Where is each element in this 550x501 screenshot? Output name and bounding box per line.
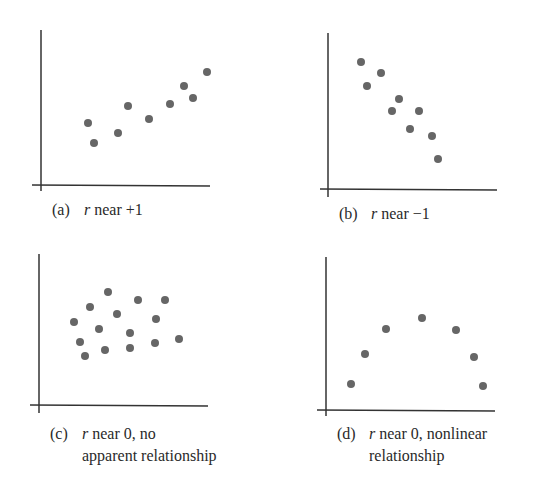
data-point [418, 314, 426, 322]
x-axis [32, 185, 210, 186]
caption-d: (d)r near 0, nonlinear relationship [337, 423, 487, 467]
data-point [357, 58, 365, 66]
data-point [134, 296, 142, 304]
data-point [382, 325, 390, 333]
data-point [428, 132, 436, 140]
data-point [347, 380, 355, 388]
data-point [189, 94, 197, 102]
data-point [166, 100, 174, 108]
caption-tag: (c) [50, 423, 82, 445]
data-point [388, 107, 396, 115]
data-point [126, 344, 134, 352]
data-point [363, 82, 371, 90]
data-point [377, 69, 385, 77]
data-point [452, 326, 460, 334]
caption-tag: (d) [337, 423, 369, 445]
data-point [90, 139, 98, 147]
data-point [470, 353, 478, 361]
data-point [113, 310, 121, 318]
data-point [479, 382, 487, 390]
data-point [175, 335, 183, 343]
data-point [86, 303, 94, 311]
data-point [151, 339, 159, 347]
data-point [203, 68, 211, 76]
data-point [104, 288, 112, 296]
caption-tag: (a) [52, 199, 84, 221]
data-point [434, 155, 442, 163]
data-point [161, 296, 169, 304]
caption-tag: (b) [339, 203, 371, 225]
data-point [361, 350, 369, 358]
x-axis [320, 189, 497, 190]
data-point [81, 352, 89, 360]
data-point [395, 95, 403, 103]
caption-text: near 0, no [88, 425, 156, 442]
caption-a: (a)r near +1 [52, 199, 143, 221]
x-axis [317, 410, 495, 411]
data-point [152, 315, 160, 323]
panel-c [30, 254, 208, 413]
data-point [101, 346, 109, 354]
caption-text-line2: apparent relationship [50, 445, 217, 467]
x-axis [30, 405, 208, 406]
data-point [180, 82, 188, 90]
data-point [84, 119, 92, 127]
panel-b [320, 33, 497, 197]
data-point [415, 107, 423, 115]
caption-c: (c)r near 0, no apparent relationship [50, 423, 217, 467]
caption-text-line2: relationship [337, 445, 487, 467]
caption-text: near +1 [90, 201, 143, 218]
data-point [76, 338, 84, 346]
data-point [95, 325, 103, 333]
data-point [126, 329, 134, 337]
caption-text: near −1 [377, 205, 430, 222]
panel-a [32, 30, 211, 191]
data-point [406, 125, 414, 133]
data-point [145, 115, 153, 123]
data-point [114, 129, 122, 137]
panel-d [317, 257, 495, 416]
data-point [124, 102, 132, 110]
caption-text: near 0, nonlinear [375, 425, 487, 442]
caption-b: (b)r near −1 [339, 203, 430, 225]
data-point [70, 318, 78, 326]
